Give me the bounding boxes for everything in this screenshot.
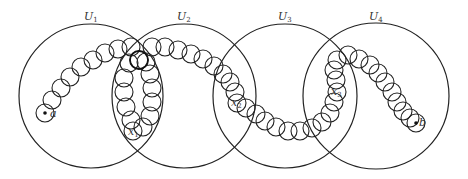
small-ball [169,41,187,59]
small-ball [194,50,212,68]
small-ball [303,119,321,137]
small-ball [221,73,239,91]
small-ball [52,79,70,97]
set-label-U4: U4 [369,10,383,24]
open-cover-chain-diagram: U1U2U3U4abx1x2x3 [0,0,468,179]
point-label-b: b [419,116,426,129]
small-ball [115,69,133,87]
small-ball [325,61,343,79]
set-label-U3: U3 [278,10,292,24]
small-ball [383,83,401,101]
ball-chain-group [36,38,425,140]
highlighted-ball [130,51,148,69]
point-a-dot [43,111,47,115]
set-label-U2: U2 [177,10,191,24]
small-ball [361,56,379,74]
small-ball [182,45,200,63]
point-b-dot [414,121,418,125]
point-label-x3: x3 [331,85,342,99]
small-ball [291,122,309,140]
open-set-U4 [303,23,449,169]
open-set-U1 [19,24,163,168]
point-label-a: a [50,107,57,120]
set-label-U1: U1 [84,10,98,24]
small-ball [61,68,79,86]
small-ball [143,93,161,111]
small-ball [328,51,346,69]
point-label-x2: x2 [231,96,242,110]
small-ball [267,118,285,136]
small-ball [156,38,174,56]
small-ball [350,50,368,68]
